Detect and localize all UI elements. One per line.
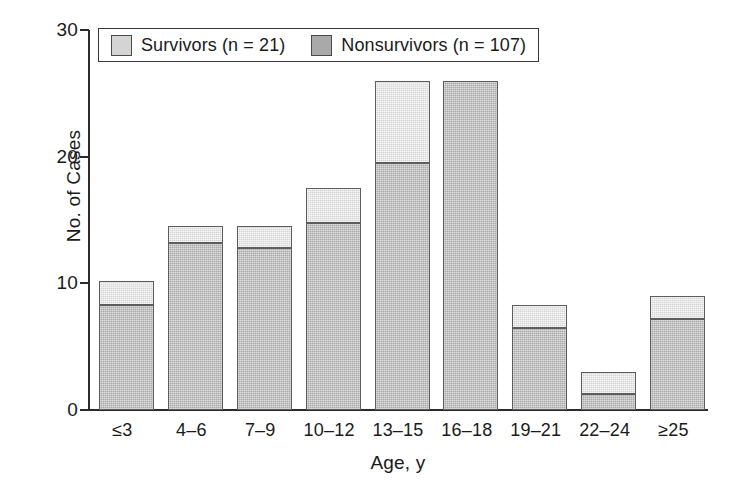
legend-item-nonsurvivors: Nonsurvivors (n = 107) <box>311 35 526 56</box>
bar-segment-nonsurvivors <box>375 163 430 410</box>
bar-16–18 <box>443 81 498 410</box>
bar-segment-survivors <box>306 188 361 222</box>
x-tick-label: ≤3 <box>88 421 157 439</box>
y-tick-label: 30 <box>40 20 78 39</box>
bar-segment-nonsurvivors <box>512 328 567 410</box>
bar-22–24 <box>581 372 636 410</box>
y-tick-label: 10 <box>40 273 78 292</box>
bar-chart-figure: 3020100 ≤34–67–910–1213–1516–1819–2122–2… <box>0 0 746 488</box>
y-tick-label: 0 <box>40 400 78 419</box>
legend-swatch-nonsurvivors <box>311 35 332 56</box>
legend-label-survivors: Survivors (n = 21) <box>141 36 285 54</box>
bar-segment-survivors <box>650 296 705 319</box>
legend-swatch-survivors <box>111 35 132 56</box>
bar-segment-nonsurvivors <box>581 394 636 410</box>
bar-segment-nonsurvivors <box>99 305 154 410</box>
bar-7–9 <box>237 226 292 410</box>
bar-≤3 <box>99 281 154 410</box>
bar-segment-survivors <box>99 281 154 305</box>
x-axis-title: Age, y <box>88 452 708 474</box>
bar-19–21 <box>512 305 567 410</box>
legend-item-survivors: Survivors (n = 21) <box>111 35 285 56</box>
y-tick-mark <box>80 29 89 31</box>
bar-segment-survivors <box>168 226 223 242</box>
bar-segment-nonsurvivors <box>237 248 292 410</box>
chart-legend: Survivors (n = 21) Nonsurvivors (n = 107… <box>98 28 539 62</box>
bar-segment-nonsurvivors <box>443 81 498 410</box>
y-tick-mark <box>80 282 89 284</box>
bar-segment-nonsurvivors <box>306 223 361 410</box>
x-tick-label: 22–24 <box>570 421 639 439</box>
bar-4–6 <box>168 226 223 410</box>
bar-13–15 <box>375 81 430 410</box>
bar-segment-survivors <box>512 305 567 328</box>
bar-segment-survivors <box>581 372 636 394</box>
bar-segment-nonsurvivors <box>168 243 223 410</box>
bar-≥25 <box>650 296 705 410</box>
x-tick-label: 19–21 <box>501 421 570 439</box>
bar-segment-survivors <box>375 81 430 163</box>
bar-segment-nonsurvivors <box>650 319 705 410</box>
x-tick-label: 13–15 <box>364 421 433 439</box>
legend-label-nonsurvivors: Nonsurvivors (n = 107) <box>341 36 526 54</box>
bar-segment-survivors <box>237 226 292 248</box>
x-tick-label: 10–12 <box>295 421 364 439</box>
x-tick-label: 4–6 <box>157 421 226 439</box>
x-tick-label: ≥25 <box>639 421 708 439</box>
y-axis-title: No. of Cases <box>63 106 85 266</box>
x-tick-label: 7–9 <box>226 421 295 439</box>
y-tick-mark <box>80 409 89 411</box>
x-tick-label: 16–18 <box>432 421 501 439</box>
bar-10–12 <box>306 188 361 410</box>
y-axis-line <box>88 30 90 411</box>
